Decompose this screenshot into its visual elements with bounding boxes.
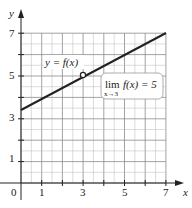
y-tick-label-3: 3 — [9, 111, 15, 123]
limit-subscript: x→3 — [104, 90, 119, 98]
y-axis — [18, 9, 24, 200]
axis-ticks — [18, 33, 166, 186]
x-axis-label: x — [182, 186, 188, 198]
y-tick-label-1: 1 — [9, 152, 15, 164]
y-axis-arrow-icon — [18, 9, 24, 18]
x-axis — [0, 180, 184, 186]
x-tick-label-3: 3 — [80, 186, 86, 198]
open-circle-point — [80, 72, 85, 77]
y-axis-label: y — [8, 7, 14, 19]
x-tick-label-5: 5 — [122, 186, 128, 198]
grid-lines — [21, 33, 166, 183]
limit-lim: lim — [105, 78, 120, 90]
origin-label: 0 — [11, 186, 17, 198]
limit-expression: f(x) = 5 — [123, 78, 157, 91]
y-tick-label-5: 5 — [9, 69, 15, 81]
limit-graph: y x 0 1 3 5 7 1 3 5 7 y = f(x) lim x→3 f… — [0, 0, 192, 208]
y-tick-label-7: 7 — [9, 27, 15, 39]
x-tick-label-1: 1 — [39, 186, 45, 198]
curve-label: y = f(x) — [44, 56, 78, 69]
x-tick-label-7: 7 — [163, 186, 169, 198]
limit-annotation: lim x→3 f(x) = 5 — [101, 73, 163, 99]
